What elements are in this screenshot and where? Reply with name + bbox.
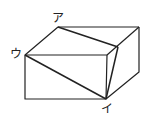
prism-drawing (0, 0, 153, 125)
cut-line-u-to-i (25, 55, 106, 99)
cut-line-a-to-point (58, 27, 118, 47)
diagram-canvas: ア ウ イ (0, 0, 153, 125)
vertex-label-u: ウ (10, 48, 22, 60)
vertex-label-i: イ (101, 103, 113, 115)
vertex-label-a: ア (52, 12, 64, 24)
right-face-edges (106, 27, 139, 99)
top-right-edge (107, 27, 139, 55)
top-face-edges (25, 27, 139, 55)
